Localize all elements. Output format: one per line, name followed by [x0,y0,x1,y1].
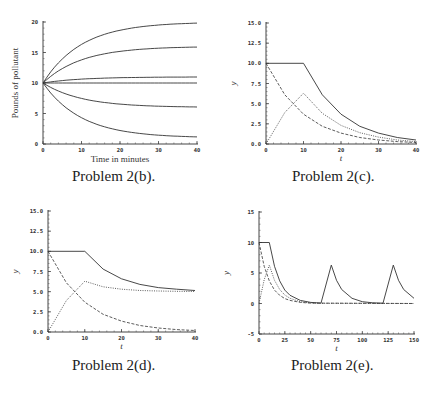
y-tick-label: 0.0 [251,141,261,147]
chart-panel-c: 0102030400.02.55.07.510.012.515.0ty Prob… [220,0,441,195]
x-tick-label: 150 [409,337,419,343]
y-tick-label: 0 [251,301,254,307]
x-axis-label: t [340,153,343,163]
y-tick-label: 15.0 [248,20,261,26]
y-tick-label: 12.5 [248,40,261,46]
x-axis-label: t [335,343,338,353]
x-tick-label: 30 [155,147,162,153]
x-tick-label: 100 [357,337,367,343]
x-tick-label: 125 [383,337,393,343]
y-axis-label: y [10,270,20,275]
y-axis-label: y [228,82,238,87]
y-tick-label: 10 [247,240,254,246]
chart-d-caption: Problem 2(d). [72,357,155,374]
x-tick-label: 10 [81,335,88,341]
y-axis-label: y [221,271,231,276]
series-line-total [259,243,414,304]
chart-e-caption: Problem 2(e). [291,357,373,374]
chart-panel-b: 01020304005101520Time in minutesPounds o… [0,0,220,195]
y-tick-label: 12.5 [30,228,43,234]
x-tick-label: 40 [192,335,199,341]
series-line-L=1 [43,83,197,137]
y-tick-label: 15 [31,50,38,56]
chart-panel-d: 0102030400.02.55.07.510.012.515.0ty Prob… [0,195,220,393]
x-tick-label: 10 [300,147,307,153]
y-tick-label: 10 [31,80,38,86]
series-line-second [259,265,414,303]
series [48,251,195,332]
y-tick-label: 0.0 [33,329,43,335]
x-tick-label: 0 [257,337,260,343]
series-line-L=6 [43,83,197,107]
x-tick-labels: 0255075100125150 [257,337,419,343]
y-tick-labels: 0.02.55.07.510.012.515.0 [30,208,43,335]
x-tick-labels: 010203040 [41,147,200,153]
x-tick-label: 40 [194,147,201,153]
series-line-L=20 [43,23,197,83]
x-tick-label: 0 [264,147,267,153]
x-tick-label: 20 [117,147,124,153]
chart-b-plot: 01020304005101520Time in minutesPounds o… [0,0,220,170]
y-tick-label: 5.0 [251,101,261,107]
chart-b-caption: Problem 2(b). [72,168,155,185]
series-line-total [266,63,416,140]
axes [48,210,196,332]
y-tick-labels: -5051015 [247,209,254,337]
x-tick-label: 50 [307,337,314,343]
y-tick-label: 2.5 [33,309,43,315]
axes [43,21,198,144]
x-tick-label: 10 [78,147,85,153]
series-line-first [266,63,416,142]
y-axis-label: Pounds of pollutant [10,47,20,118]
chart-c-caption: Problem 2(c). [292,168,374,185]
y-tick-labels: 0.02.55.07.510.012.515.0 [248,20,261,147]
x-tick-label: 40 [413,147,420,153]
series [259,243,414,304]
y-tick-label: 5 [35,111,38,117]
y-tick-label: 7.5 [251,81,261,87]
y-tick-label: 0 [35,141,38,147]
y-tick-label: 10.0 [248,60,261,66]
series [43,23,197,137]
y-tick-label: 2.5 [251,121,261,127]
x-tick-label: 0 [41,147,44,153]
series [266,63,416,144]
series-line-L=11 [43,77,197,83]
chart-panel-e: 0255075100125150-5051015ty Problem 2(e). [220,195,441,393]
x-tick-label: 0 [46,335,49,341]
x-tick-label: 30 [155,335,162,341]
axes [266,22,417,144]
y-tick-label: -5 [247,331,254,337]
chart-c-plot: 0102030400.02.55.07.510.012.515.0ty [220,0,441,170]
x-axis-label: Time in minutes [91,154,150,164]
series-line-total [48,251,195,290]
chart-e-plot: 0255075100125150-5051015ty [220,195,441,355]
x-axis-label: t [120,341,123,351]
y-tick-label: 15.0 [30,208,43,214]
y-tick-label: 15 [247,209,254,215]
y-tick-label: 7.5 [33,269,43,275]
y-tick-labels: 05101520 [31,19,38,147]
y-tick-label: 5.0 [33,289,43,295]
y-tick-label: 5 [251,270,254,276]
x-tick-label: 25 [282,337,289,343]
y-tick-label: 10.0 [30,248,43,254]
chart-d-plot: 0102030400.02.55.07.510.012.515.0ty [0,195,220,355]
x-tick-label: 30 [375,147,382,153]
y-tick-label: 20 [31,19,38,25]
